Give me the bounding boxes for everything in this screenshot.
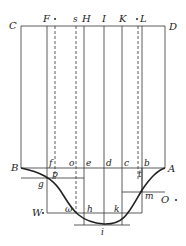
- label-g: g: [38, 179, 44, 189]
- label-m: m: [145, 191, 154, 201]
- label-e: e: [86, 158, 91, 168]
- label-s: s: [73, 14, 78, 24]
- label-I: I: [101, 13, 107, 24]
- label-k: k: [114, 204, 119, 214]
- label-omega: ω: [65, 204, 73, 214]
- label-t: t: [138, 169, 142, 179]
- label-p: p: [52, 169, 58, 179]
- label-H: H: [81, 13, 91, 24]
- label-K: K: [118, 13, 127, 24]
- label-W: W: [32, 207, 43, 218]
- label-A: A: [167, 163, 175, 174]
- label-f: f: [48, 158, 54, 168]
- label-C: C: [9, 20, 17, 31]
- label-O: O: [161, 194, 169, 205]
- label-D: D: [168, 21, 177, 32]
- label-d: d: [106, 158, 112, 168]
- label-F: F: [42, 13, 51, 24]
- label-B: B: [10, 162, 18, 173]
- pendulum-diagram: C F s H I K L D B f o e d c b A p g t m …: [0, 0, 186, 246]
- label-b: b: [144, 158, 150, 168]
- label-c: c: [124, 158, 129, 168]
- pendulum-curve: [21, 168, 165, 224]
- label-i: i: [101, 227, 104, 237]
- label-o: o: [69, 158, 75, 168]
- label-h: h: [87, 204, 93, 214]
- label-L: L: [139, 13, 147, 24]
